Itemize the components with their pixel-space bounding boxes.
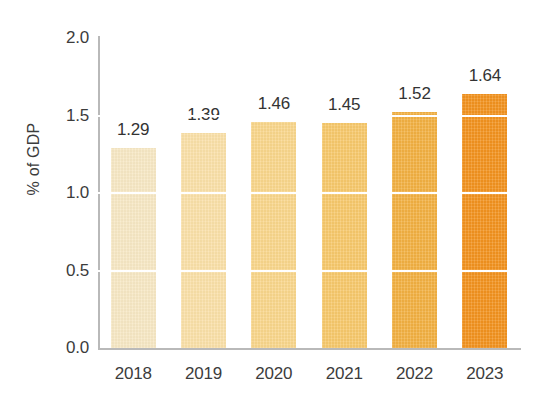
y-tick-label: 0.5 xyxy=(43,261,89,281)
bar xyxy=(392,112,437,348)
bar xyxy=(251,122,296,348)
y-tick-label: 1.5 xyxy=(43,106,89,126)
bar xyxy=(462,94,507,348)
bar xyxy=(322,123,367,348)
bar-group: 1.52 xyxy=(392,38,437,348)
bar xyxy=(181,133,226,348)
bar-value-label: 1.52 xyxy=(376,84,453,104)
x-axis-line xyxy=(98,348,521,350)
bar xyxy=(111,148,156,348)
y-tick-label: 1.0 xyxy=(43,183,89,203)
bar-group: 1.46 xyxy=(251,38,296,348)
bars-layer: 1.291.391.461.451.521.64 xyxy=(98,38,520,348)
bar-group: 1.64 xyxy=(462,38,507,348)
bar-chart: % of GDP 0.00.51.01.52.0 1.291.391.461.4… xyxy=(0,0,546,398)
y-tick-label: 2.0 xyxy=(43,28,89,48)
plot-area: 0.00.51.01.52.0 1.291.391.461.451.521.64 xyxy=(98,38,520,348)
bar-value-label: 1.29 xyxy=(95,120,172,140)
x-tick-label: 2023 xyxy=(440,364,530,384)
bar-value-label: 1.45 xyxy=(306,95,383,115)
bar-value-label: 1.46 xyxy=(235,94,312,114)
y-tick-label: 0.0 xyxy=(43,338,89,358)
bar-value-label: 1.64 xyxy=(446,66,523,86)
bar-group: 1.39 xyxy=(181,38,226,348)
bar-group: 1.29 xyxy=(111,38,156,348)
y-axis-title: % of GDP xyxy=(25,99,43,219)
bar-group: 1.45 xyxy=(322,38,367,348)
bar-value-label: 1.39 xyxy=(165,105,242,125)
